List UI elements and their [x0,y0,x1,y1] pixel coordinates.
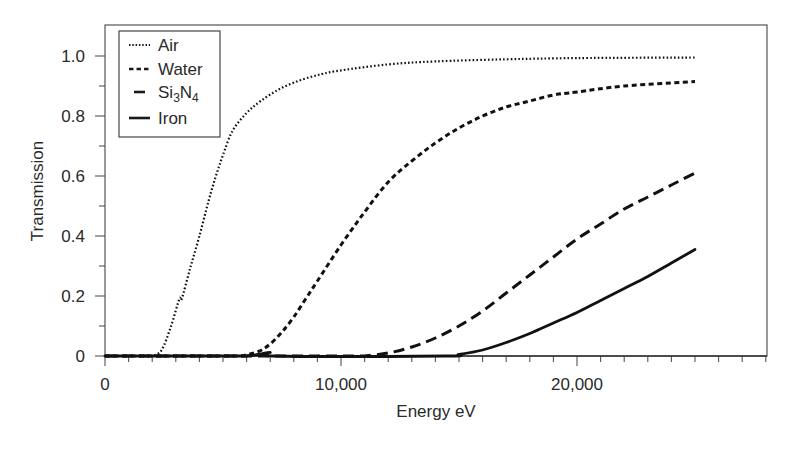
y-axis-title: Transmission [28,141,47,241]
y-tick-label: 0 [76,347,85,366]
x-tick-label: 10,000 [315,375,367,394]
x-axis-title: Energy eV [396,402,476,421]
y-tick-label: 1.0 [61,47,85,66]
transmission-chart: 010,00020,000 00.20.40.60.81.0 Energy eV… [0,0,793,449]
legend-label-air: Air [158,36,179,55]
legend-label-n: N [180,83,192,102]
legend-label-si: Si [158,83,173,102]
y-tick-label: 0.4 [61,227,85,246]
legend-label-iron: Iron [158,109,187,128]
y-tick-label: 0.8 [61,107,85,126]
x-tick-label: 20,000 [551,375,603,394]
x-tick-label: 0 [100,375,109,394]
x-axis-ticks: 010,00020,000 [100,356,766,394]
legend-label-water: Water [158,60,203,79]
y-axis-ticks: 00.20.40.60.81.0 [61,47,105,366]
y-tick-label: 0.6 [61,167,85,186]
legend-label-sub4: 4 [192,91,199,105]
y-tick-label: 0.2 [61,287,85,306]
series-line-iron [105,250,695,357]
legend: Air Water Si3N4 Iron [119,31,220,137]
series-line-si3n4 [105,173,695,356]
